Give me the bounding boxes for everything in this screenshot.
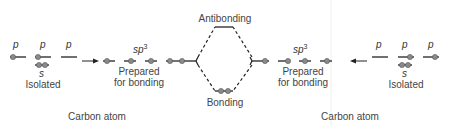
antibonding-label: Antibonding [199,13,252,24]
electron-icon [128,58,133,63]
electron-icon [148,58,153,63]
left-p2-label: p [39,39,46,50]
right-antibonding-dash [233,27,252,57]
electron-icon [302,58,307,63]
left-prepared-label-line1: Prepared [118,66,159,77]
right-prepared-group: sp3 Prepared for bonding [278,43,332,88]
electron-icon [285,58,290,63]
electron-icon [36,62,41,67]
left-atom-caption: Carbon atom [68,111,126,122]
right-sp3-label: sp3 [293,43,308,55]
arrow-head-icon [93,59,99,64]
right-isolated-group: p p p s Isolated [372,39,439,90]
left-bonding-dash [198,65,215,91]
electron-icon [10,54,15,59]
electron-icon [179,58,184,63]
left-isolated-label: Isolated [25,79,60,90]
molecular-orbitals-group: Antibonding Bonding [178,13,269,108]
left-prepared-group: sp3 Prepared for bonding [103,43,178,88]
left-s-label: s [39,68,44,79]
left-fork-top [196,57,198,61]
electron-icon [405,62,410,67]
right-atom-caption: Carbon atom [321,111,379,122]
right-fork-bottom [250,61,252,65]
bonding-label: Bonding [207,97,244,108]
left-sp3-label: sp3 [133,43,148,55]
right-isolated-label: Isolated [388,79,423,90]
left-fork-bottom [196,61,198,65]
left-p3-label: p [65,39,72,50]
right-prepared-label-line1: Prepared [282,66,323,77]
electron-icon [35,54,40,59]
electron-icon [399,62,404,67]
electron-icon [432,54,437,59]
right-p3-label: p [427,39,434,50]
electron-icon [218,88,223,93]
electron-icon [167,58,172,63]
electron-icon [42,62,47,67]
right-bonding-dash [233,65,252,91]
left-isolated-group: p p p s Isolated [10,39,77,90]
right-p1-label: p [375,39,382,50]
hybridization-diagram: p p p s Isolated sp3 Prepared for bondin… [0,0,450,126]
left-p1-label: p [12,39,19,50]
right-s-label: s [402,68,407,79]
electron-icon [262,58,267,63]
right-prepared-label-line2: for bonding [278,77,328,88]
left-prepared-label-line2: for bonding [114,77,164,88]
electron-icon [104,58,109,63]
electron-icon [225,88,230,93]
left-antibonding-dash [198,27,215,57]
right-p2-label: p [401,39,408,50]
electron-icon [324,58,329,63]
right-fork-top [250,57,252,61]
electron-icon [407,54,412,59]
